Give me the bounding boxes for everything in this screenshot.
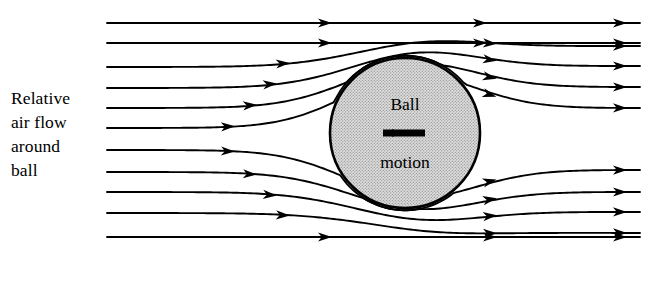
flow-label-line-1: Relative xyxy=(11,86,106,110)
flow-label-line-4: ball xyxy=(11,158,106,182)
air-flow-diagram: Relative air flow around ball Ball motio… xyxy=(0,0,647,281)
flow-label-line-3: around xyxy=(11,134,106,158)
ball-label: Ball xyxy=(330,95,480,113)
streamline-arrowhead-icon xyxy=(276,58,291,68)
streamline xyxy=(107,213,640,233)
streamline-arrowhead-icon xyxy=(263,79,278,90)
flow-label-line-2: air flow xyxy=(11,110,106,134)
streamline-arrowhead-icon xyxy=(483,211,498,221)
flow-label: Relative air flow around ball xyxy=(11,86,106,182)
motion-label: motion xyxy=(330,153,480,171)
